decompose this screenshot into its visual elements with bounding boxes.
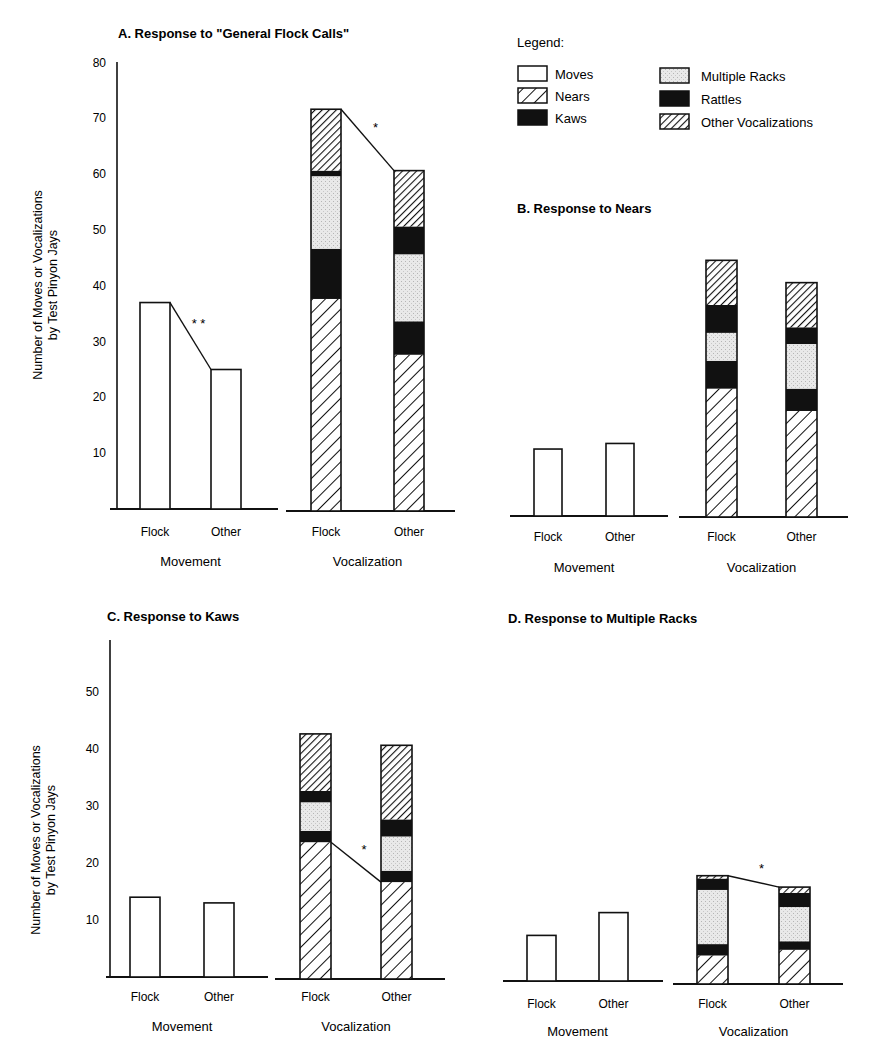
bar-segment-nears (786, 411, 817, 517)
panel-a: A. Response to "General Flock Calls"1020… (31, 26, 455, 569)
y-axis-label: Number of Moves or Vocalizationsby Test … (31, 190, 60, 380)
bar-segment-other-vocalizations (786, 283, 817, 328)
panel-d: D. Response to Multiple RacksFlockOtherM… (503, 611, 843, 1039)
legend-item-rattles: Rattles (660, 91, 742, 107)
figure: A. Response to "General Flock Calls"1020… (0, 0, 888, 1064)
bar-segment-rattles (381, 871, 412, 882)
group-movement: FlockOtherMovement* * (110, 303, 278, 569)
bar-segment-rattles (697, 944, 728, 955)
bar-flock (706, 260, 737, 517)
bar-segment-nears (394, 355, 424, 511)
y-tick-label: 30 (93, 335, 107, 349)
bar-segment-rattles (706, 305, 737, 333)
group-label: Vocalization (321, 1019, 390, 1034)
group-label: Vocalization (719, 1024, 788, 1039)
bar-segment-rattles (779, 941, 810, 950)
significance-marker: * * (192, 316, 206, 331)
significance-connector (728, 876, 779, 887)
panel-b: B. Response to NearsFlockOtherMovementFl… (510, 201, 848, 575)
category-label: Flock (534, 530, 564, 544)
y-tick-label: 50 (86, 685, 100, 699)
category-label: Other (779, 997, 809, 1011)
bar-segment-other-vocalizations (779, 887, 810, 893)
bar-other (779, 887, 810, 984)
panel-title: C. Response to Kaws (107, 609, 239, 624)
bar-segment-moves (534, 449, 562, 516)
bar-other (204, 903, 234, 977)
y-tick-label: 50 (93, 223, 107, 237)
bar-segment-multiple-racks (311, 176, 341, 249)
group-movement: FlockOtherMovement (503, 913, 663, 1039)
group-label: Movement (152, 1019, 213, 1034)
panel-c: C. Response to Kaws1020304050Number of M… (29, 609, 445, 1034)
bar-flock (527, 935, 556, 981)
bar-other (211, 370, 241, 510)
bar-segment-moves (211, 370, 241, 510)
group-vocalization: FlockOtherVocalization* (673, 861, 843, 1039)
bar-flock (534, 449, 562, 516)
bar-segment-moves (599, 913, 628, 981)
bar-segment-moves (527, 935, 556, 981)
group-label: Movement (547, 1024, 608, 1039)
legend-item-nears: Nears (518, 88, 590, 104)
significance-connector (170, 303, 211, 370)
bar-segment-rattles (381, 819, 412, 836)
y-tick-label: 40 (93, 279, 107, 293)
bar-segment-rattles (300, 831, 331, 842)
y-axis-label: Number of Moves or Vocalizationsby Test … (29, 745, 58, 935)
bar-flock (697, 876, 728, 984)
bar-other (381, 745, 412, 979)
bar-segment-moves (606, 443, 634, 516)
y-tick-label: 20 (86, 856, 100, 870)
legend-item-multiple-racks: Multiple Racks (660, 68, 786, 84)
bar-segment-moves (130, 897, 160, 977)
category-label: Flock (527, 997, 557, 1011)
legend: Legend: Moves Nears Kaws Multiple Racks … (517, 35, 814, 130)
category-label: Flock (131, 990, 161, 1004)
bar-segment-multiple-racks (779, 907, 810, 941)
category-label: Flock (698, 997, 728, 1011)
group-vocalization: FlockOtherVocalization (679, 260, 848, 575)
bar-segment-nears (300, 842, 331, 979)
panel-title: D. Response to Multiple Racks (508, 611, 697, 626)
bar-segment-other-vocalizations (311, 109, 341, 170)
bar-segment-nears (697, 956, 728, 985)
svg-text:Multiple Racks: Multiple Racks (701, 69, 786, 84)
category-label: Other (211, 525, 241, 539)
bar-flock (140, 303, 170, 509)
bar-segment-moves (204, 903, 234, 977)
bar-segment-rattles (706, 361, 737, 389)
category-label: Other (204, 990, 234, 1004)
bar-flock (311, 109, 341, 511)
group-label: Vocalization (727, 560, 796, 575)
bar-segment-other-vocalizations (300, 734, 331, 791)
svg-text:Rattles: Rattles (701, 92, 742, 107)
bar-segment-moves (140, 303, 170, 509)
legend-title: Legend: (517, 35, 564, 50)
bar-segment-other-vocalizations (381, 745, 412, 819)
group-label: Movement (554, 560, 615, 575)
bar-segment-nears (706, 389, 737, 517)
bar-other (786, 283, 817, 517)
y-tick-label: 10 (93, 446, 107, 460)
significance-marker: * (759, 861, 764, 876)
group-label: Vocalization (333, 554, 402, 569)
category-label: Flock (141, 525, 171, 539)
y-tick-label: 80 (93, 56, 107, 70)
svg-text:Other Vocalizations: Other Vocalizations (701, 115, 814, 130)
bar-segment-multiple-racks (394, 254, 424, 321)
bar-other (599, 913, 628, 981)
bar-segment-rattles (300, 791, 331, 802)
panel-title: B. Response to Nears (517, 201, 651, 216)
category-label: Other (786, 530, 816, 544)
bar-segment-rattles (311, 171, 341, 177)
group-vocalization: FlockOtherVocalization* (275, 734, 445, 1034)
significance-connector (341, 109, 394, 170)
legend-item-kaws: Kaws (518, 110, 587, 126)
category-label: Other (605, 530, 635, 544)
significance-marker: * (373, 120, 378, 135)
bar-flock (130, 897, 160, 977)
bar-segment-rattles (394, 226, 424, 254)
significance-marker: * (361, 842, 366, 857)
y-tick-label: 30 (86, 799, 100, 813)
